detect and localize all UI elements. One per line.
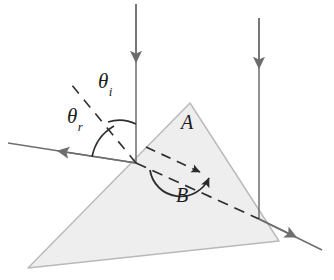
reflected-ray (8, 143, 136, 163)
theta-i-symbol: θ (98, 69, 108, 93)
figure-canvas (0, 0, 334, 280)
label-region-a: A (181, 112, 193, 132)
label-theta-r: θr (67, 106, 82, 130)
theta-i-subscript: i (109, 84, 113, 99)
theta-i-arc (108, 120, 136, 124)
label-theta-i: θi (98, 71, 112, 95)
theta-r-symbol: θ (67, 104, 77, 128)
prism-body (28, 103, 279, 268)
theta-r-subscript: r (78, 119, 83, 134)
label-region-b: B (176, 185, 188, 205)
theta-r-arc (92, 126, 114, 157)
optics-prism-figure: θi θr A B (0, 0, 334, 280)
